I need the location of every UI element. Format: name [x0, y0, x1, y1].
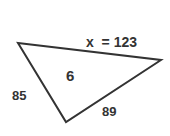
triangle-diagram: x = 123 6 85 89	[0, 0, 170, 136]
center-label: 6	[66, 67, 74, 84]
triangle	[18, 43, 161, 122]
bottom-side-label: 89	[102, 104, 116, 119]
top-side-label: x = 123	[86, 34, 137, 50]
left-side-label: 85	[12, 88, 26, 103]
